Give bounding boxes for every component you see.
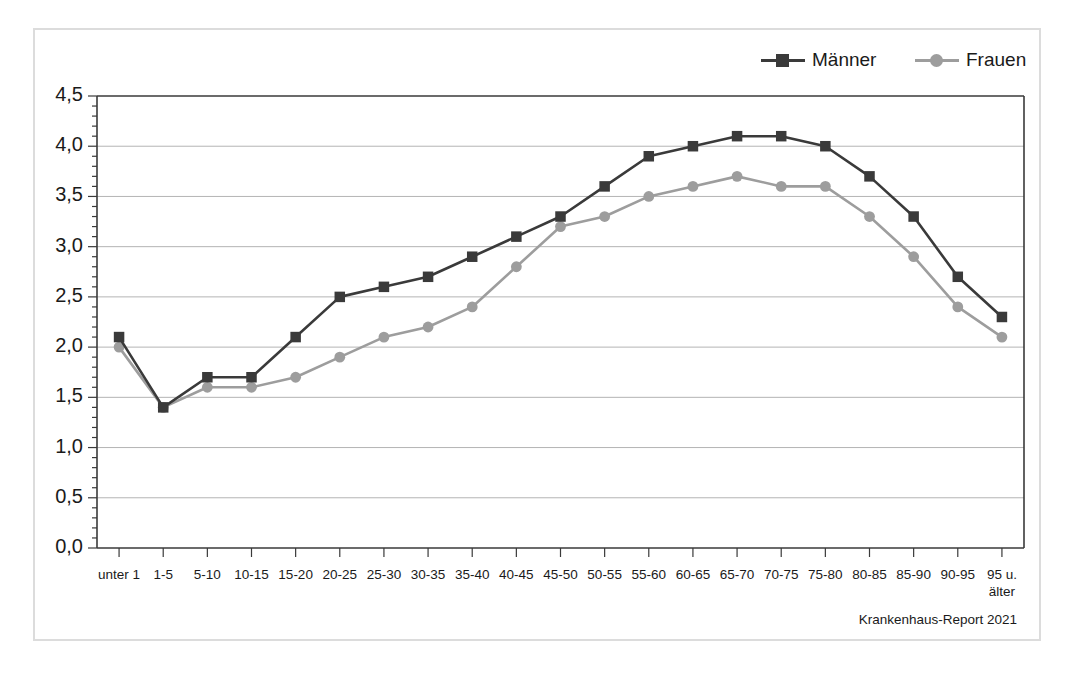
y-axis-tick-label: 2,0	[29, 334, 83, 357]
data-point-marker	[290, 372, 301, 383]
data-point-marker	[555, 221, 566, 232]
data-point-marker	[953, 272, 964, 283]
y-axis-tick-label: 1,0	[29, 435, 83, 458]
data-point-marker	[952, 302, 963, 313]
y-axis-tick-label: 0,0	[29, 535, 83, 558]
data-point-marker	[908, 251, 919, 262]
data-point-marker	[290, 332, 301, 343]
data-point-marker	[688, 141, 699, 152]
data-point-marker	[379, 282, 390, 293]
data-point-marker	[379, 332, 390, 343]
data-point-marker	[334, 352, 345, 363]
y-axis-tick-label: 4,0	[29, 133, 83, 156]
data-point-marker	[555, 211, 566, 222]
data-point-marker	[246, 382, 257, 393]
data-point-marker	[335, 292, 346, 303]
data-point-marker	[511, 231, 522, 242]
data-point-marker	[776, 181, 787, 192]
data-point-marker	[511, 261, 522, 272]
data-point-marker	[732, 171, 743, 182]
data-point-marker	[732, 131, 743, 142]
data-point-marker	[246, 372, 257, 383]
data-point-marker	[776, 131, 787, 142]
y-axis-tick-label: 4,5	[29, 83, 83, 106]
data-point-marker	[423, 272, 434, 283]
data-point-marker	[644, 151, 655, 162]
data-point-marker	[908, 211, 919, 222]
x-axis-tick-label: 95 u. älter	[971, 566, 1033, 600]
data-point-marker	[423, 322, 434, 333]
data-point-marker	[820, 141, 831, 152]
data-point-marker	[158, 402, 169, 413]
source-note: Krankenhaus-Report 2021	[859, 612, 1017, 627]
y-axis-tick-label: 3,0	[29, 234, 83, 257]
data-point-marker	[114, 332, 125, 343]
data-point-marker	[997, 312, 1008, 323]
plot-area: 0,00,51,01,52,02,53,03,54,04,5 unter 11-…	[35, 30, 1043, 643]
y-axis-tick-label: 0,5	[29, 485, 83, 508]
figure-frame: Männer Frauen 0,00,51,01,52,02,53,03,54,…	[33, 28, 1041, 641]
data-point-marker	[202, 382, 213, 393]
data-point-marker	[688, 181, 699, 192]
data-point-marker	[864, 211, 875, 222]
data-point-marker	[997, 332, 1008, 343]
data-point-marker	[820, 181, 831, 192]
data-point-marker	[467, 251, 478, 262]
y-axis-tick-label: 1,5	[29, 384, 83, 407]
y-axis-tick-label: 2,5	[29, 284, 83, 307]
y-axis-tick-label: 3,5	[29, 183, 83, 206]
data-point-marker	[643, 191, 654, 202]
data-point-marker	[864, 171, 875, 182]
data-point-marker	[202, 372, 213, 383]
line-chart-canvas	[35, 30, 1043, 643]
data-point-marker	[467, 302, 478, 313]
data-point-marker	[599, 181, 610, 192]
data-point-marker	[599, 211, 610, 222]
